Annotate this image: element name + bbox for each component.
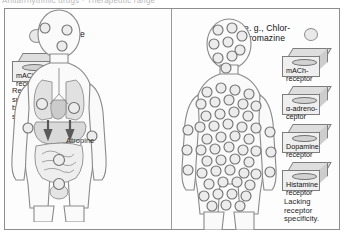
- top-cutoff-label: Antiarrhythmic drugs · Therapeutic range: [2, 0, 155, 5]
- receptor-box-front-face: Histamine receptor: [282, 170, 320, 191]
- receptor-box-dopamine: Dopamine receptor: [282, 124, 328, 154]
- body-annotation-left: Atropine: [66, 136, 94, 145]
- receptor-box-mach-right: mACh- receptor: [282, 48, 328, 78]
- receptor-circle-icon-right: [304, 28, 318, 41]
- figure-canvas: Antiarrhythmic drugs · Therapeutic range…: [0, 0, 344, 232]
- receptor-slot-icon: [292, 97, 317, 104]
- receptor-box-label: α-adreno- ceptor: [283, 105, 321, 121]
- body-figure-left: [4, 8, 114, 222]
- receptor-box-histamine: Histamine receptor: [282, 162, 328, 192]
- receptor-slot-icon: [292, 135, 317, 142]
- page-top-cutoff-text: Antiarrhythmic drugs · Therapeutic range: [0, 0, 344, 8]
- panel-left: Atropine mACh- receptor Receptor specifi…: [4, 8, 172, 230]
- receptor-box-label: Dopamine receptor: [283, 143, 321, 159]
- caption-right: Lacking receptor specificity.: [284, 198, 338, 224]
- panel-right: e. g., Chlor- promazine mACh- receptor α…: [172, 8, 340, 230]
- receptor-slot-icon: [292, 173, 317, 180]
- receptor-box-front-face: mACh- receptor: [282, 56, 320, 77]
- receptor-box-front-face: α-adreno- ceptor: [282, 94, 320, 115]
- receptor-slot-icon: [292, 59, 317, 66]
- receptor-box-front-face: Dopamine receptor: [282, 132, 320, 153]
- receptor-box-label: Histamine receptor: [283, 181, 321, 197]
- receptor-box-label: mACh- receptor: [283, 67, 321, 83]
- receptor-box-alpha-adreno: α-adreno- ceptor: [282, 86, 328, 116]
- body-figure-right: [174, 8, 284, 230]
